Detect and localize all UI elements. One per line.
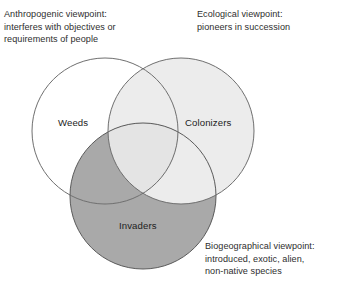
venn-diagram-figure: Anthropogenic viewpoint: interferes with… — [0, 0, 354, 296]
set-label-colonizers: Colonizers — [185, 117, 231, 128]
annotation-ecological-viewpoint: Ecological viewpoint: pioneers in succes… — [197, 8, 352, 33]
annotation-anthropogenic-viewpoint: Anthropogenic viewpoint: interferes with… — [4, 8, 179, 46]
annotation-biogeographical-viewpoint: Biogeographical viewpoint: introduced, e… — [205, 240, 354, 278]
set-label-invaders: Invaders — [119, 220, 157, 231]
set-label-weeds: Weeds — [58, 117, 88, 128]
